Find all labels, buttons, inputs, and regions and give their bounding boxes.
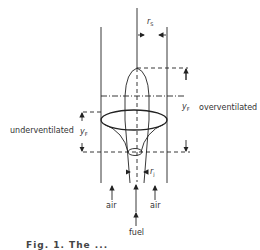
fuel-label: fuel (129, 229, 144, 237)
underventilated-label: underventilated (10, 127, 74, 135)
overventilated-label: overventilated (199, 104, 257, 112)
yf-under-label: yF (80, 128, 88, 137)
figure-caption: Fig. 1. The ... (26, 240, 108, 250)
yf-over-label: yF (182, 103, 190, 112)
rj-label: rj (150, 168, 155, 177)
rs-label: rS (147, 18, 153, 27)
air-right-label: air (150, 202, 160, 210)
air-left-label: air (106, 202, 116, 210)
